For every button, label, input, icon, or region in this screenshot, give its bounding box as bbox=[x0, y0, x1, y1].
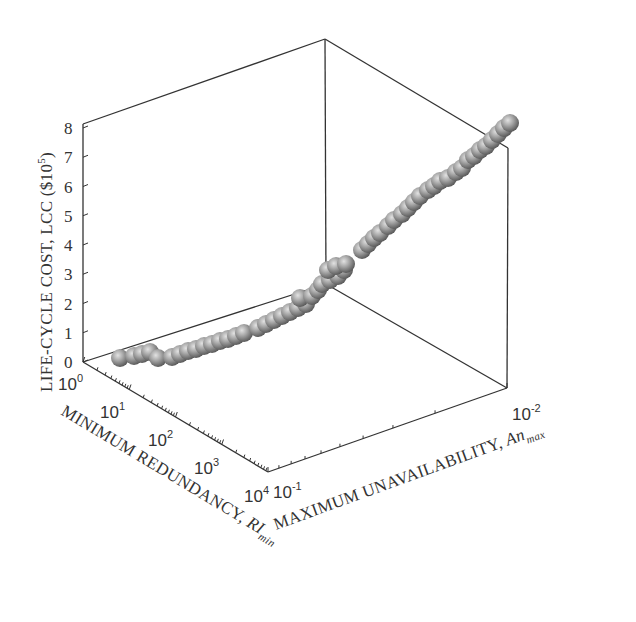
z-tick-label: 0 bbox=[64, 353, 73, 372]
z-axis-ticks: 012345678 bbox=[64, 119, 88, 372]
y-tick-label: 10-2 bbox=[512, 402, 541, 424]
z-tick-label: 1 bbox=[64, 324, 73, 343]
x-tick-label: 101 bbox=[100, 400, 125, 422]
box-top-left-edge bbox=[83, 39, 325, 124]
z-tick-label: 3 bbox=[64, 265, 73, 284]
data-points bbox=[111, 114, 519, 367]
x-tick-label: 104 bbox=[244, 484, 269, 506]
x-tick-label: 103 bbox=[194, 456, 219, 478]
z-tick-label: 6 bbox=[64, 178, 73, 197]
x-tick-label: 100 bbox=[58, 372, 83, 394]
box-top-right-edge bbox=[325, 39, 508, 148]
box-right-vertical-edge bbox=[507, 148, 508, 388]
z-tick-label: 7 bbox=[64, 148, 73, 167]
z-axis-title: LIFE-CYCLE COST, LCC ($105) bbox=[35, 152, 56, 392]
z-tick-label: 8 bbox=[64, 119, 73, 138]
axes-box bbox=[83, 39, 508, 472]
z-tick-label: 5 bbox=[64, 207, 73, 226]
box-floor-back-right-edge bbox=[326, 284, 507, 388]
y-tick-label: 10-1 bbox=[273, 480, 302, 502]
y-axis-title: MAXIMUM UNAVAILABILITY, Anmax bbox=[271, 418, 547, 536]
box-back-vertical-edge bbox=[325, 39, 326, 284]
x-tick-label: 102 bbox=[148, 428, 173, 450]
data-point bbox=[501, 114, 519, 132]
data-point bbox=[337, 255, 355, 273]
3d-scatter-chart: 012345678 100101102103104 10-110-2 LIFE-… bbox=[0, 0, 636, 622]
z-tick-label: 2 bbox=[64, 295, 73, 314]
x-axis-title: MINIMUM REDUNDANCY, RImin bbox=[56, 401, 283, 549]
z-tick-label: 4 bbox=[64, 236, 73, 255]
